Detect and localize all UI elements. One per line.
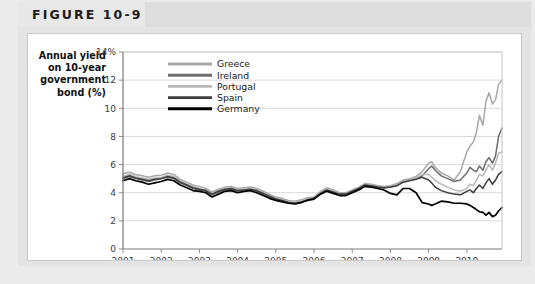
y-tick-label: 12: [105, 75, 116, 85]
y-tick-label: 10: [105, 104, 117, 114]
x-tick-label: 2005: [264, 256, 287, 260]
y-tick-label: 8: [110, 132, 116, 142]
legend-label-ireland: Ireland: [217, 70, 249, 81]
legend-label-germany: Germany: [217, 103, 260, 114]
y-axis-tick-labels: 02468101214%: [96, 47, 116, 254]
x-tick-label: 2004: [226, 256, 249, 260]
legend-label-spain: Spain: [217, 92, 243, 103]
x-tick-label: 2009: [417, 256, 440, 260]
x-axis-tick-labels: 2001200220032004200520062007200820092010: [112, 256, 479, 260]
chart-legend: GreeceIrelandPortugalSpainGermany: [168, 58, 260, 114]
x-tick-label: 2006: [303, 256, 326, 260]
x-tick-label: 2003: [188, 256, 211, 260]
data-series: [123, 80, 502, 217]
y-tick-label: 6: [110, 160, 116, 170]
x-axis-ticks: [123, 249, 467, 253]
chart-card: Annual yieldon 10-yeargovernmentbond (%)…: [27, 33, 522, 261]
y-tick-label: 14%: [96, 47, 116, 57]
x-tick-label: 2008: [379, 256, 402, 260]
chart-plot: 02468101214% 200120022003200420052006200…: [28, 34, 521, 260]
x-tick-label: 2007: [341, 256, 364, 260]
y-tick-label: 0: [110, 244, 116, 254]
plot-frame: [123, 52, 502, 249]
y-tick-label: 4: [110, 188, 116, 198]
gridlines: [123, 52, 502, 221]
x-tick-label: 2001: [112, 256, 135, 260]
legend-label-portugal: Portugal: [217, 81, 256, 92]
y-tick-label: 2: [110, 216, 116, 226]
x-tick-label: 2010: [455, 256, 478, 260]
legend-label-greece: Greece: [217, 58, 250, 69]
figure-title: FIGURE 10-9: [32, 7, 143, 22]
figure-container: FIGURE 10-9 Annual yieldon 10-yeargovern…: [0, 0, 535, 284]
x-tick-label: 2002: [150, 256, 173, 260]
